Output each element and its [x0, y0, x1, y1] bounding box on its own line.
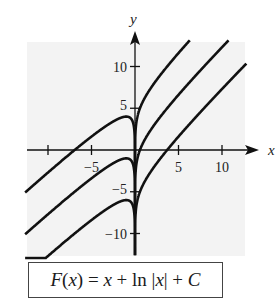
x-tick-label: 5	[175, 160, 182, 175]
x-axis-label: x	[267, 142, 275, 158]
y-tick-label: 5	[120, 98, 127, 113]
y-axis-label: y	[128, 11, 137, 27]
y-tick-label: −10	[105, 227, 127, 242]
formula-x2: x	[103, 269, 111, 291]
formula-box: F(x) = x + ln |x| + C	[28, 262, 223, 298]
formula-x: x	[68, 269, 76, 291]
formula-C: C	[188, 269, 201, 291]
formula-bar-plus: | +	[164, 269, 188, 291]
y-tick-label: −5	[112, 182, 127, 197]
formula-F: F	[50, 269, 62, 291]
formula-eq: =	[83, 269, 103, 291]
chart: −5510105−5−10 x y	[0, 0, 279, 302]
y-tick-label: 10	[113, 60, 127, 75]
formula-plus-ln: + ln |	[112, 269, 156, 291]
x-tick-label: 10	[215, 160, 229, 175]
formula-x3: x	[155, 269, 163, 291]
x-tick-label: −5	[84, 160, 99, 175]
